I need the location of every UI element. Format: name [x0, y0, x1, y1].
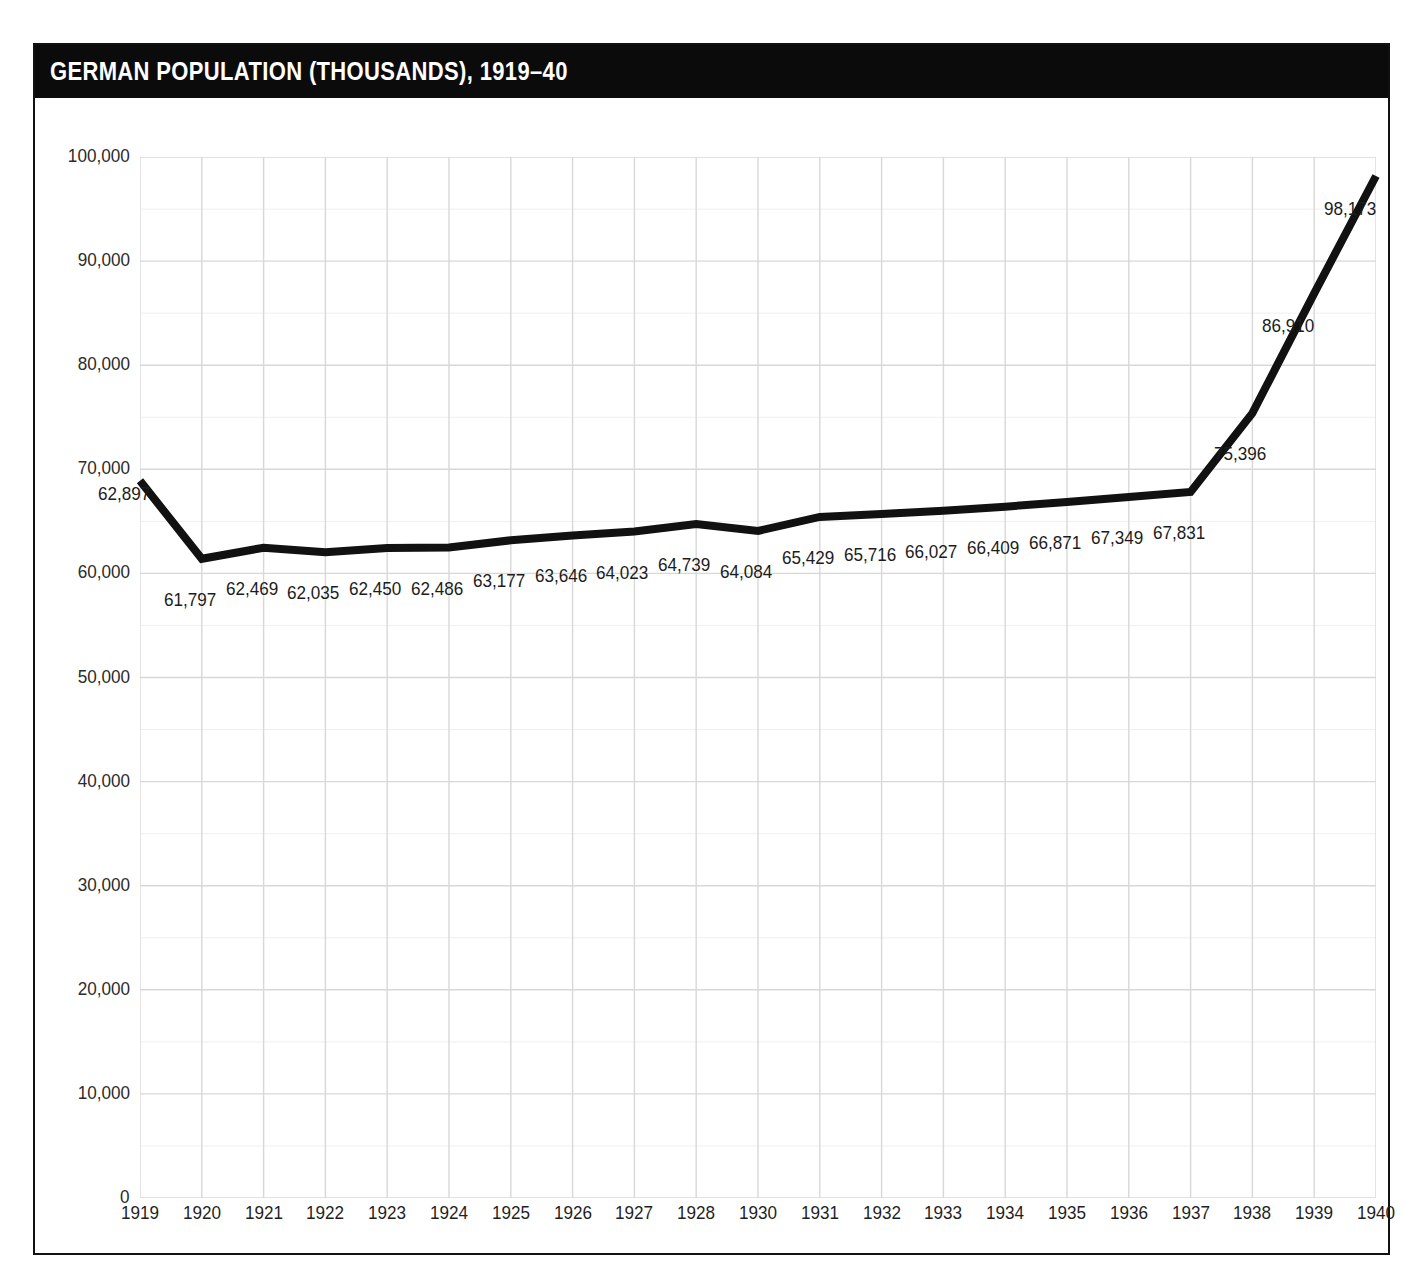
x-axis-tick-label: 1940	[1357, 1202, 1395, 1224]
plot-area	[140, 157, 1376, 1198]
y-axis-tick-label: 50,000	[78, 666, 130, 688]
y-axis-tick-label: 60,000	[78, 561, 130, 583]
y-axis-tick-label: 90,000	[78, 249, 130, 271]
x-axis-tick-label: 1924	[430, 1202, 468, 1224]
series-layer	[140, 157, 1376, 1198]
x-axis-tick-label: 1931	[801, 1202, 839, 1224]
x-axis-tick-label: 1919	[121, 1202, 159, 1224]
x-axis-tick-label: 1933	[924, 1202, 962, 1224]
population-line	[140, 176, 1376, 559]
x-axis-tick-label: 1923	[368, 1202, 406, 1224]
x-axis-tick-label: 1921	[245, 1202, 283, 1224]
y-axis-tick-label: 100,000	[68, 145, 130, 167]
y-axis-tick-label: 70,000	[78, 457, 130, 479]
chart-card: GERMAN POPULATION (THOUSANDS), 1919–40 0…	[33, 43, 1390, 1255]
x-axis-tick-label: 1928	[677, 1202, 715, 1224]
page-title: GERMAN POPULATION (THOUSANDS), 1919–40	[35, 57, 568, 86]
y-axis-tick-label: 30,000	[78, 874, 130, 896]
x-axis-tick-label: 1927	[615, 1202, 653, 1224]
x-axis-tick-label: 1937	[1172, 1202, 1210, 1224]
x-axis-tick-label: 1934	[986, 1202, 1024, 1224]
y-axis-tick-label: 10,000	[78, 1082, 130, 1104]
chart-title-bar: GERMAN POPULATION (THOUSANDS), 1919–40	[35, 45, 1388, 98]
x-axis-tick-label: 1920	[183, 1202, 221, 1224]
x-axis-tick-label: 1935	[1048, 1202, 1086, 1224]
x-axis-tick-label: 1922	[306, 1202, 344, 1224]
chart-page: GERMAN POPULATION (THOUSANDS), 1919–40 0…	[0, 0, 1428, 1279]
y-axis-tick-label: 20,000	[78, 978, 130, 1000]
x-axis-tick-label: 1932	[863, 1202, 901, 1224]
plot-container: 010,00020,00030,00040,00050,00060,00070,…	[35, 98, 1388, 1255]
x-axis-tick-label: 1936	[1110, 1202, 1148, 1224]
x-axis-tick-label: 1926	[554, 1202, 592, 1224]
x-axis-tick-label: 1925	[492, 1202, 530, 1224]
x-axis-tick-label: 1938	[1233, 1202, 1271, 1224]
y-axis-tick-label: 40,000	[78, 770, 130, 792]
y-axis-tick-label: 80,000	[78, 353, 130, 375]
x-axis-tick-label: 1939	[1295, 1202, 1333, 1224]
x-axis-labels: 1919192019211922192319241925192619271928…	[140, 1202, 1376, 1236]
y-axis-labels: 010,00020,00030,00040,00050,00060,00070,…	[35, 157, 130, 1198]
x-axis-tick-label: 1930	[739, 1202, 777, 1224]
